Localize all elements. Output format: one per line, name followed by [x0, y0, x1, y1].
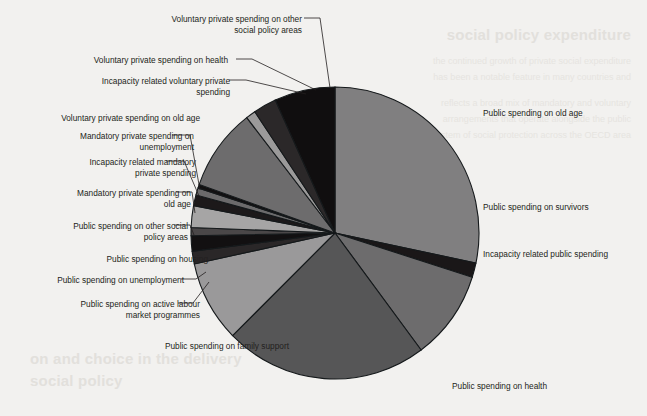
pie-slice-group: [191, 87, 479, 379]
pie-slice-label: Voluntary private spending on old age: [30, 113, 200, 124]
pie-slice-label: Incapacity related voluntary private spe…: [60, 76, 230, 98]
pie-slice-label: Public spending on health: [452, 381, 547, 392]
leader-line: [236, 59, 316, 90]
pie-slice-label: Public spending on other social policy a…: [18, 221, 188, 243]
pie-slice-label: Voluntary private spending on other soci…: [132, 14, 302, 36]
pie-slice-label: Incapacity related mandatory private spe…: [26, 157, 196, 179]
pie-slice-label: Mandatory private spending on old age: [21, 188, 191, 210]
leader-line: [304, 18, 330, 88]
figure-page: social policy expenditure on and choice …: [0, 0, 647, 416]
pie-slice-label: Voluntary private spending on health: [58, 55, 228, 66]
pie-slice-label: Public spending on family support: [99, 341, 289, 352]
pie-slice[interactable]: [335, 87, 479, 263]
pie-slice-label: Mandatory private spending on unemployme…: [24, 131, 194, 153]
leader-line: [229, 80, 306, 94]
pie-slice-label: Public spending on housing: [38, 254, 208, 265]
pie-slice-label: Public spending on active labour market …: [30, 299, 200, 321]
pie-slice-label: Public spending on survivors: [483, 202, 589, 213]
pie-slice-label: Public spending on unemployment: [14, 275, 184, 286]
pie-slice-label: Incapacity related public spending: [483, 249, 608, 260]
pie-slice-label: Public spending on old age: [483, 108, 583, 119]
